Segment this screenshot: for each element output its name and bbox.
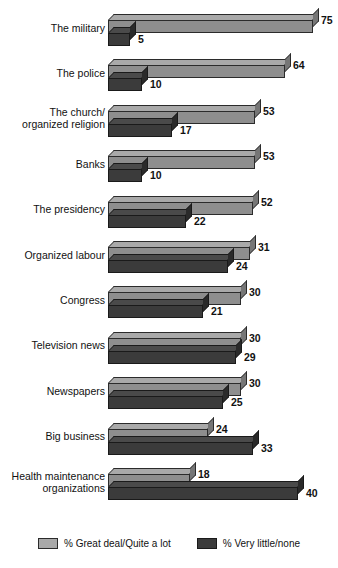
bar-very-little-top-face	[108, 209, 192, 215]
value-label-very-little: 40	[306, 488, 318, 499]
bar-very-little	[108, 78, 142, 91]
bar-great-deal-top-face	[108, 332, 247, 338]
bar-very-little	[108, 487, 298, 500]
bar-great-deal-top-face	[108, 241, 256, 247]
bar-very-little-front-face	[108, 33, 130, 46]
bar-great-deal-side-face	[190, 462, 196, 481]
legend-label-very-little: % Very little/none	[223, 538, 300, 549]
value-label-great-deal: 30	[249, 378, 261, 389]
legend-item-great-deal: % Great deal/Quite a lot	[38, 538, 171, 549]
value-label-very-little: 22	[194, 216, 206, 227]
bar-great-deal-side-face	[285, 53, 291, 72]
value-label-great-deal: 30	[249, 333, 261, 344]
bar-very-little	[108, 33, 130, 46]
bar-great-deal-top-face	[108, 196, 259, 202]
bar-very-little-front-face	[108, 305, 203, 318]
bar-very-little-top-face	[108, 345, 242, 351]
value-label-very-little: 5	[138, 34, 144, 45]
bar-very-little-front-face	[108, 442, 253, 455]
bar-great-deal	[108, 20, 313, 33]
bar-great-deal-top-face	[108, 14, 319, 20]
bar-great-deal-side-face	[241, 371, 247, 390]
bar-great-deal-side-face	[241, 280, 247, 299]
bar-very-little-top-face	[108, 436, 259, 442]
bar-great-deal-top-face	[108, 377, 247, 383]
bar-great-deal-top-face	[108, 105, 261, 111]
bar-very-little-side-face	[203, 293, 209, 312]
bar-great-deal-top-face	[108, 286, 247, 292]
bar-very-little	[108, 169, 142, 182]
value-label-great-deal: 31	[258, 242, 270, 253]
bar-very-little	[108, 442, 253, 455]
bar-very-little-top-face	[108, 390, 229, 396]
bar-great-deal-side-face	[253, 190, 259, 209]
value-label-very-little: 25	[231, 397, 243, 408]
bar-very-little-top-face	[108, 481, 304, 487]
category-label: The military	[0, 22, 105, 34]
legend-item-very-little: % Very little/none	[197, 538, 300, 549]
legend-label-great-deal: % Great deal/Quite a lot	[64, 538, 171, 549]
bar-great-deal-side-face	[313, 8, 319, 27]
bar-very-little-top-face	[108, 118, 178, 124]
category-label: Congress	[0, 294, 105, 306]
bar-very-little-front-face	[108, 487, 298, 500]
bar-very-little-front-face	[108, 260, 228, 273]
value-label-great-deal: 30	[249, 287, 261, 298]
bar-very-little-side-face	[253, 430, 259, 449]
bar-very-little-top-face	[108, 254, 234, 260]
value-label-great-deal: 52	[261, 197, 273, 208]
value-label-great-deal: 53	[263, 106, 275, 117]
value-label-great-deal: 75	[321, 15, 333, 26]
bar-great-deal-side-face	[255, 99, 261, 118]
bar-very-little-front-face	[108, 215, 186, 228]
value-label-great-deal: 18	[198, 469, 210, 480]
bar-great-deal-top-face	[108, 59, 291, 65]
value-label-very-little: 33	[261, 443, 273, 454]
bar-great-deal-side-face	[250, 235, 256, 254]
chart-legend: % Great deal/Quite a lot % Very little/n…	[0, 533, 338, 553]
value-label-great-deal: 53	[263, 151, 275, 162]
value-label-very-little: 24	[236, 261, 248, 272]
bar-very-little	[108, 305, 203, 318]
bar-very-little	[108, 124, 172, 137]
light-gray-swatch-icon	[38, 538, 58, 549]
category-label: Banks	[0, 158, 105, 170]
bar-very-little-side-face	[298, 475, 304, 494]
bar-great-deal-top-face	[108, 468, 196, 474]
grouped-3d-bar-chart: The military755The police6410The church/…	[0, 0, 338, 568]
dark-gray-swatch-icon	[197, 538, 217, 549]
category-label: The presidency	[0, 203, 105, 215]
bar-very-little-front-face	[108, 124, 172, 137]
category-label: The church/ organized religion	[0, 106, 105, 130]
category-label: Television news	[0, 339, 105, 351]
bar-very-little-front-face	[108, 396, 223, 409]
value-label-very-little: 10	[150, 170, 162, 181]
bar-great-deal-side-face	[255, 144, 261, 163]
category-label: Organized labour	[0, 249, 105, 261]
value-label-very-little: 29	[244, 352, 256, 363]
value-label-great-deal: 64	[293, 60, 305, 71]
bar-very-little	[108, 215, 186, 228]
category-label: Newspapers	[0, 385, 105, 397]
bar-very-little	[108, 351, 236, 364]
value-label-very-little: 10	[150, 79, 162, 90]
category-label: The police	[0, 67, 105, 79]
bar-very-little-front-face	[108, 78, 142, 91]
value-label-great-deal: 24	[216, 424, 228, 435]
bar-very-little-front-face	[108, 169, 142, 182]
bar-great-deal-side-face	[208, 417, 214, 436]
bar-very-little-top-face	[108, 299, 209, 305]
bar-great-deal-top-face	[108, 423, 214, 429]
bar-great-deal-top-face	[108, 150, 261, 156]
bar-very-little	[108, 260, 228, 273]
value-label-very-little: 17	[180, 125, 192, 136]
category-label: Health maintenance organizations	[0, 470, 105, 494]
bar-very-little-front-face	[108, 351, 236, 364]
value-label-very-little: 21	[211, 306, 223, 317]
category-label: Big business	[0, 430, 105, 442]
bar-very-little	[108, 396, 223, 409]
bar-great-deal-front-face	[108, 20, 313, 33]
bar-very-little-side-face	[142, 66, 148, 85]
